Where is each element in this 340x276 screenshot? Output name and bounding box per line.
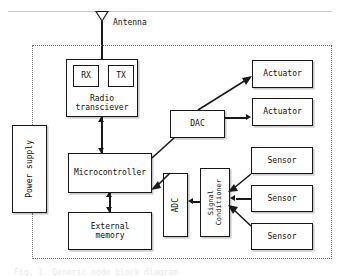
arrowhead-radio-up bbox=[98, 117, 104, 122]
link-dac-to-actuator2 bbox=[225, 117, 247, 119]
arrowhead-mcu-down bbox=[98, 148, 104, 153]
arrowhead-actuator2 bbox=[246, 114, 251, 120]
radio-transceiver-label-line1: Radio bbox=[90, 94, 114, 103]
antenna-label: Antenna bbox=[113, 18, 147, 27]
actuator-1-label: Actuator bbox=[263, 69, 302, 78]
link-sigcond-to-adc bbox=[193, 201, 201, 203]
block-power-supply[interactable]: Power supply bbox=[12, 125, 47, 213]
signal-conditioner-label-line2: Conditioner bbox=[215, 179, 223, 225]
figure-canvas: Antenna Radio transciever RX TX Power su… bbox=[0, 0, 340, 276]
external-memory-label-line2: memory bbox=[96, 231, 125, 240]
power-supply-label: Power supply bbox=[25, 140, 34, 198]
block-external-memory[interactable]: External memory bbox=[68, 212, 152, 250]
sensor-1-label: Sensor bbox=[268, 156, 297, 165]
power-line-top-left bbox=[32, 45, 33, 125]
signal-conditioner-label-line1: Signal bbox=[207, 190, 215, 215]
dac-label: DAC bbox=[190, 119, 204, 128]
block-sensor-3[interactable]: Sensor bbox=[251, 223, 313, 250]
actuator-2-label: Actuator bbox=[263, 107, 302, 116]
external-memory-label-line1: External bbox=[91, 222, 130, 231]
sensor-3-label: Sensor bbox=[268, 232, 297, 241]
figure-caption: Fig. 1. Generic node block diagram bbox=[14, 268, 178, 276]
arrowhead-memory-up bbox=[106, 192, 112, 197]
block-microcontroller[interactable]: Microcontroller bbox=[68, 153, 152, 193]
sensor-2-label: Sensor bbox=[268, 194, 297, 203]
rx-label: RX bbox=[81, 71, 91, 80]
block-tx[interactable]: TX bbox=[108, 65, 134, 87]
block-actuator-2[interactable]: Actuator bbox=[252, 98, 313, 126]
block-sensor-1[interactable]: Sensor bbox=[251, 147, 313, 174]
arrowhead-adc bbox=[188, 198, 193, 204]
block-actuator-1[interactable]: Actuator bbox=[252, 60, 313, 88]
radio-transceiver-label-line2: transciever bbox=[76, 103, 129, 112]
tx-label: TX bbox=[116, 71, 126, 80]
arrowhead-memory-down bbox=[106, 207, 112, 212]
block-adc[interactable]: ADC bbox=[163, 173, 188, 237]
microcontroller-label: Microcontroller bbox=[74, 168, 146, 177]
block-dac[interactable]: DAC bbox=[170, 110, 225, 138]
link-sensor2-to-sigcond bbox=[236, 198, 252, 200]
block-sensor-2[interactable]: Sensor bbox=[251, 185, 313, 212]
block-signal-conditioner[interactable]: Signal Conditioner bbox=[200, 168, 230, 237]
adc-label: ADC bbox=[171, 198, 180, 212]
block-rx[interactable]: RX bbox=[73, 65, 99, 87]
power-line-bottom-left bbox=[32, 213, 33, 259]
antenna-icon-inner bbox=[97, 12, 107, 20]
top-divider-rule bbox=[8, 11, 332, 12]
arrowhead-sigcond-mid bbox=[230, 195, 235, 201]
